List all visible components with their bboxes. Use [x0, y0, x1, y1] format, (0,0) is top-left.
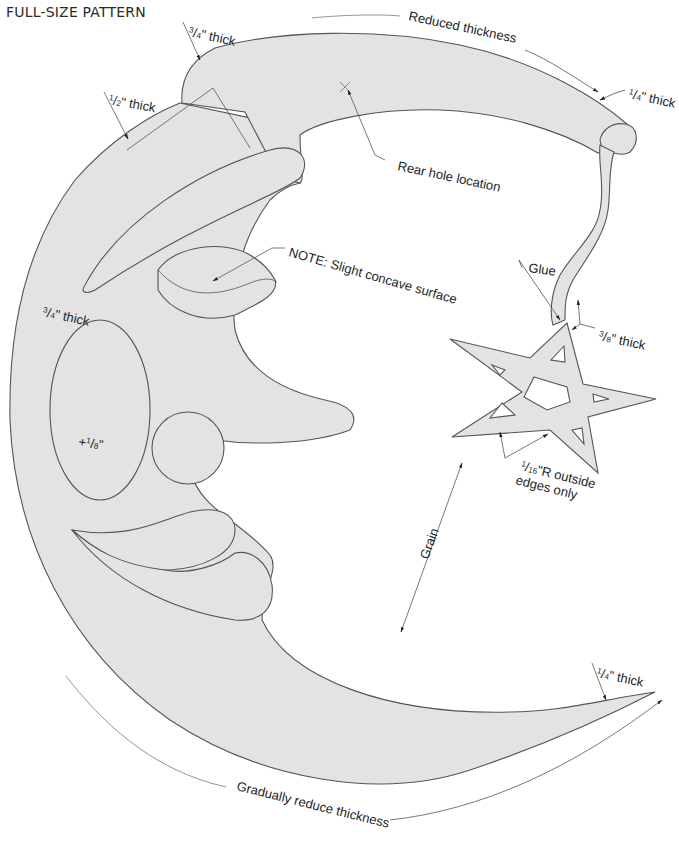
eye	[158, 247, 276, 319]
label-hat-brim-thickness: 1/2" thick	[107, 92, 157, 115]
leader-star-radius-a	[500, 432, 505, 458]
nose	[152, 412, 224, 484]
tassel-strap	[551, 145, 614, 325]
leader-tassel-b	[572, 324, 580, 330]
label-note: NOTE: Slight concave surface	[287, 244, 459, 306]
label-hat-top-thickness: 3/4" thick	[187, 24, 237, 49]
label-grain: Grain	[417, 526, 442, 561]
leader-tassel-a	[578, 300, 595, 328]
label-hat-tip-thickness: 1/4" thick	[627, 86, 677, 111]
reduced-thickness-arc-left	[312, 15, 400, 18]
label-tassel-thickness: 3/8" thick	[597, 328, 647, 353]
leader-hat-tip	[600, 90, 625, 100]
label-glue: Glue	[528, 260, 557, 279]
label-rear-hole: Rear hole location	[396, 158, 502, 194]
cheek	[50, 320, 150, 500]
leader-star-radius-b	[505, 434, 548, 458]
label-gradually-reduce: Gradually reduce thickness	[235, 778, 391, 831]
label-chin-tip-thickness: 1/4" thick	[595, 665, 645, 690]
moon-pattern-diagram: 3/4" thick 1/2" thick Reduced thickness …	[0, 0, 679, 847]
